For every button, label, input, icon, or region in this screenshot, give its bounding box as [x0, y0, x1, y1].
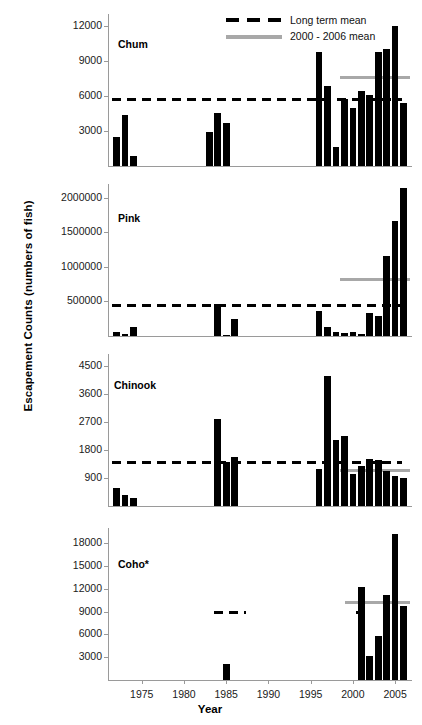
bar-chinook-2006 [400, 478, 407, 506]
chum-y-tick [104, 131, 108, 132]
x-tick [353, 680, 354, 684]
bar-pink-2003 [375, 316, 382, 336]
chinook-y-tick [104, 422, 108, 423]
chinook-y-tick-label: 900 [56, 471, 102, 483]
bar-pink-2000 [350, 332, 357, 336]
bar-pink-1972 [113, 332, 120, 336]
chum-y-axis [108, 14, 109, 166]
coho-y-tick [104, 657, 108, 658]
bar-chum-1996 [316, 52, 323, 166]
bar-chinook-2004 [383, 471, 390, 506]
bar-chinook-2005 [392, 476, 399, 506]
chum-y-tick-label: 6000 [56, 89, 102, 101]
panel-title-chum: Chum [118, 38, 148, 50]
bar-pink-2001 [358, 334, 365, 336]
pink-y-tick-label: 2000000 [36, 191, 102, 203]
coho-long-term-mean-line [214, 611, 246, 614]
pink-y-axis [108, 184, 109, 336]
bar-pink-1998 [333, 332, 340, 336]
bar-chum-2005 [392, 26, 399, 166]
bar-pink-1984 [214, 304, 221, 336]
x-tick [184, 680, 185, 684]
coho-y-tick [104, 543, 108, 544]
x-tick-label: 2005 [375, 688, 415, 700]
bar-chum-2004 [383, 49, 390, 166]
plot-area-coho: Coho* [108, 528, 412, 680]
bar-pink-1999 [341, 333, 348, 336]
bar-chinook-2003 [375, 460, 382, 506]
chum-y-tick [104, 96, 108, 97]
bar-pink-1996 [316, 311, 323, 336]
pink-y-tick [104, 232, 108, 233]
coho-y-tick-label: 9000 [56, 605, 102, 617]
bar-chum-2006 [400, 103, 407, 166]
chinook-y-tick-label: 1800 [56, 443, 102, 455]
chinook-y-tick-label: 4500 [56, 359, 102, 371]
figure-root: Escapement Counts (numbers of fish) Year… [0, 0, 422, 725]
bar-chinook-1973 [122, 495, 129, 506]
bar-chinook-1972 [113, 488, 120, 506]
panel-title-chinook: Chinook [114, 379, 156, 391]
bar-chinook-1997 [324, 376, 331, 506]
x-tick-label: 2000 [333, 688, 373, 700]
x-tick-label: 1975 [122, 688, 162, 700]
coho-y-axis [108, 528, 109, 680]
x-tick [311, 680, 312, 684]
chinook-x-axis [108, 506, 412, 507]
bar-coho-2003 [375, 636, 382, 680]
x-tick-label: 1990 [248, 688, 288, 700]
pink-y-tick-label: 500000 [36, 294, 102, 306]
chum-y-tick [104, 61, 108, 62]
pink-y-tick-label: 1500000 [36, 225, 102, 237]
bar-pink-2005 [392, 221, 399, 336]
bar-chum-1997 [324, 86, 331, 166]
chinook-y-tick [104, 394, 108, 395]
bar-pink-2004 [383, 256, 390, 336]
bar-pink-1973 [122, 334, 129, 336]
chinook-y-tick-label: 2700 [56, 415, 102, 427]
chum-y-tick [104, 26, 108, 27]
coho-y-tick [104, 612, 108, 613]
bar-chum-1973 [122, 115, 129, 166]
plot-area-chinook: Chinook [108, 354, 412, 506]
panel-title-pink: Pink [118, 212, 140, 224]
bar-chum-1974 [130, 156, 137, 166]
bar-chum-1984 [214, 113, 221, 166]
x-tick [395, 680, 396, 684]
bar-coho-2004 [383, 595, 390, 680]
bar-chum-2003 [375, 52, 382, 166]
bar-chinook-1986 [231, 457, 238, 506]
bar-coho-2005 [392, 534, 399, 680]
bar-coho-2001 [358, 587, 365, 680]
bar-chum-1972 [113, 137, 120, 166]
chinook-y-tick-label: 3600 [56, 387, 102, 399]
bar-chinook-1984 [214, 419, 221, 506]
chinook-y-tick [104, 478, 108, 479]
x-tick [142, 680, 143, 684]
bar-chinook-2001 [358, 466, 365, 506]
bar-coho-1985 [223, 664, 230, 680]
bar-pink-1986 [231, 319, 238, 336]
bar-chinook-1974 [130, 498, 137, 506]
chum-y-tick-label: 12000 [56, 19, 102, 31]
bar-pink-1985 [223, 335, 230, 336]
bar-coho-2002 [366, 656, 373, 680]
bar-pink-1997 [324, 327, 331, 336]
chum-y-tick-label: 3000 [56, 124, 102, 136]
x-tick-label: 1980 [164, 688, 204, 700]
panel-title-coho: Coho* [118, 558, 149, 570]
pink-y-tick-label: 1000000 [36, 260, 102, 272]
bar-pink-1974 [130, 327, 137, 336]
coho-x-axis [108, 680, 412, 681]
panel-pink: Pink 500000100000015000002000000 [0, 180, 422, 348]
chinook-y-tick [104, 366, 108, 367]
bar-pink-2006 [400, 188, 407, 336]
bar-chinook-2002 [366, 459, 373, 506]
panel-chum: Chum 30006000900012000 [0, 10, 422, 178]
bar-chinook-1996 [316, 469, 323, 506]
coho-y-tick [104, 589, 108, 590]
chinook-long-term-mean-line [112, 461, 402, 464]
x-tick [226, 680, 227, 684]
bar-chum-1985 [223, 123, 230, 166]
pink-long-term-mean-line [112, 304, 402, 307]
